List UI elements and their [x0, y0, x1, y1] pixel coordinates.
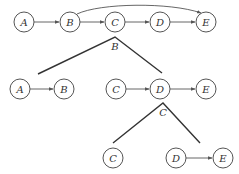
svg-text:C: C — [109, 153, 117, 164]
split-1-label: B — [110, 41, 118, 52]
node-bot-d: D — [166, 148, 186, 168]
split-2-branches — [113, 103, 200, 143]
node-mid-b: B — [54, 79, 74, 99]
node-bot-c: C — [103, 148, 123, 168]
svg-text:E: E — [201, 17, 210, 28]
node-c: C — [105, 12, 125, 32]
svg-text:D: D — [155, 84, 164, 95]
node-a: A — [14, 12, 34, 32]
edge-b-e-curved — [77, 5, 201, 14]
node-mid-d: D — [150, 79, 170, 99]
node-mid-c: C — [106, 79, 126, 99]
svg-text:A: A — [19, 17, 27, 28]
svg-text:B: B — [65, 17, 73, 28]
svg-text:A: A — [15, 84, 23, 95]
node-e: E — [196, 12, 216, 32]
svg-text:D: D — [155, 17, 164, 28]
node-bot-e: E — [213, 148, 233, 168]
middle-right-nodes: C D E — [106, 79, 216, 99]
node-b: B — [60, 12, 80, 32]
node-mid-a: A — [10, 79, 30, 99]
split-1: B — [38, 37, 162, 74]
bottom-left-nodes: C — [103, 148, 123, 168]
svg-text:C: C — [111, 17, 119, 28]
split-2-label: C — [159, 107, 167, 118]
split-2: C — [113, 103, 200, 143]
svg-text:C: C — [112, 84, 120, 95]
svg-text:D: D — [171, 153, 180, 164]
node-mid-e: E — [196, 79, 216, 99]
node-d: D — [150, 12, 170, 32]
svg-text:E: E — [218, 153, 227, 164]
split-1-branches — [38, 37, 162, 74]
svg-text:E: E — [201, 84, 210, 95]
svg-text:B: B — [59, 84, 67, 95]
graph-decomposition-diagram: A B C D E B A B C D E C C D E — [0, 0, 239, 174]
